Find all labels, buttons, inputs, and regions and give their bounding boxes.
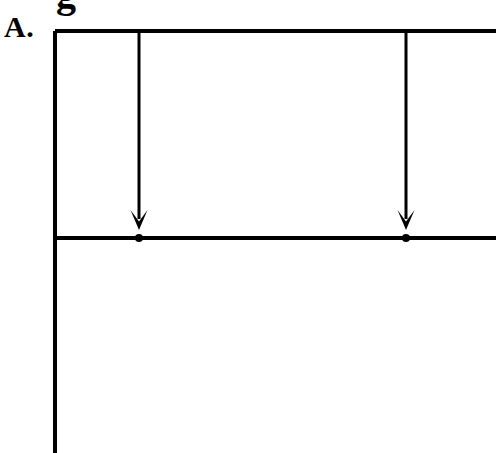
node-marker-1 [135,234,143,242]
schematic-diagram [0,0,496,453]
node-marker-2 [402,234,410,242]
drop-arrow-1 [131,31,148,230]
figure-panel-a: g A. [0,0,496,453]
drop-arrow-2 [398,31,415,230]
schematic-ink-layer [55,31,496,453]
